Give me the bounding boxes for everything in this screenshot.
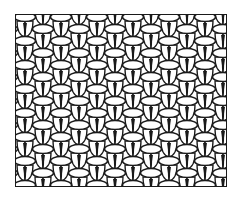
stitch: [195, 157, 216, 182]
stitch: [141, 49, 162, 74]
stitch-pattern-svg: [16, 15, 227, 187]
stitch: [159, 15, 180, 37]
stitch: [177, 97, 198, 122]
stitch: [51, 37, 72, 62]
stitch: [105, 49, 126, 74]
stitch: [87, 157, 108, 182]
stitch: [69, 145, 90, 170]
stitch: [177, 145, 198, 170]
stitch: [141, 73, 162, 98]
stitch: [159, 109, 180, 134]
stitch: [51, 61, 72, 86]
stitch: [195, 181, 216, 188]
stitch: [177, 25, 198, 50]
stitch: [105, 121, 126, 146]
stitch: [87, 37, 108, 62]
stitch: [33, 145, 54, 170]
stitch: [16, 181, 36, 188]
stitch: [213, 121, 228, 146]
stitch: [141, 97, 162, 122]
stitch: [177, 49, 198, 74]
stitch: [51, 85, 72, 110]
stitch: [16, 61, 36, 86]
stitch: [159, 133, 180, 158]
stitch: [195, 61, 216, 86]
stitch: [123, 61, 144, 86]
stitch: [33, 49, 54, 74]
stitch: [105, 25, 126, 50]
stitch: [69, 121, 90, 146]
stitch: [87, 109, 108, 134]
stitch: [69, 25, 90, 50]
stitch: [33, 25, 54, 50]
stitch: [159, 85, 180, 110]
stitch: [195, 85, 216, 110]
stitch: [195, 133, 216, 158]
stitch: [69, 49, 90, 74]
stitch: [105, 97, 126, 122]
stitch: [51, 157, 72, 182]
stitch: [33, 121, 54, 146]
stitch: [213, 73, 228, 98]
stitch: [105, 145, 126, 170]
stitch: [141, 25, 162, 50]
stitch: [141, 121, 162, 146]
stitch: [213, 97, 228, 122]
stitch: [16, 37, 36, 62]
stitch: [51, 181, 72, 188]
stitch: [195, 37, 216, 62]
stitch: [87, 61, 108, 86]
stitch: [51, 109, 72, 134]
stitch: [213, 25, 228, 50]
stitch: [87, 85, 108, 110]
stitch: [123, 157, 144, 182]
stitch: [123, 181, 144, 188]
stitch: [213, 145, 228, 170]
stitch: [33, 97, 54, 122]
stitch: [51, 15, 72, 37]
stitch: [159, 181, 180, 188]
stitch: [159, 157, 180, 182]
stitch: [195, 109, 216, 134]
stitch: [177, 121, 198, 146]
stitch: [87, 15, 108, 37]
stitch: [105, 73, 126, 98]
stitch: [123, 109, 144, 134]
stitch: [69, 97, 90, 122]
stitch: [141, 145, 162, 170]
stitch: [159, 37, 180, 62]
stitch: [87, 181, 108, 188]
stitch: [16, 85, 36, 110]
stitch: [159, 61, 180, 86]
stitch: [123, 15, 144, 37]
stitch: [16, 15, 36, 37]
stitch: [123, 133, 144, 158]
stitch: [213, 49, 228, 74]
stitch: [195, 15, 216, 37]
stitch: [16, 109, 36, 134]
stitch: [16, 133, 36, 158]
stitch: [33, 73, 54, 98]
stitch: [51, 133, 72, 158]
stitch-pattern-illustration: knit stitch texture pattern (basketweave…: [15, 14, 227, 187]
stitch: [123, 85, 144, 110]
stitch: [123, 37, 144, 62]
stitch: [87, 133, 108, 158]
stitch: [16, 157, 36, 182]
stitch: [177, 73, 198, 98]
stitch: [69, 73, 90, 98]
